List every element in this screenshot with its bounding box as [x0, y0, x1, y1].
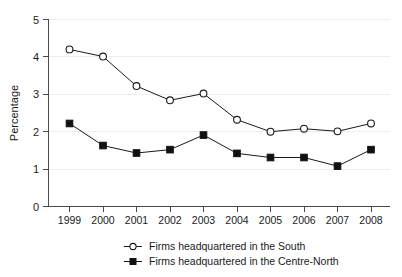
legend-item-south: Firms headquartered in the South: [124, 240, 306, 252]
data-point-marker: [200, 90, 207, 97]
data-point-marker: [267, 128, 274, 135]
legend-item-centre-north: Firms headquartered in the Centre-North: [124, 255, 339, 267]
x-tick-label-2002: 2002: [158, 214, 182, 226]
x-tick-label-2005: 2005: [259, 214, 283, 226]
legend-marker-open-circle-icon: [130, 243, 136, 249]
series-line: [70, 123, 372, 166]
data-point-marker: [100, 53, 107, 60]
y-tick-label-2: 2: [33, 126, 39, 138]
y-tick-label-5: 5: [33, 14, 39, 26]
data-point-marker: [133, 150, 140, 157]
data-point-marker: [334, 163, 341, 170]
data-point-marker: [368, 120, 375, 127]
x-tick-label-2008: 2008: [359, 214, 383, 226]
data-point-marker: [334, 128, 341, 135]
data-point-marker: [234, 116, 241, 123]
y-axis: 5 4 3 2 1 0 Percentage: [8, 14, 49, 213]
x-tick-label-2007: 2007: [326, 214, 350, 226]
data-point-marker: [100, 142, 107, 149]
line-chart: 5 4 3 2 1 0 Percentage 1999 2000 2001 20…: [0, 0, 402, 277]
x-axis: 1999 2000 2001 2002 2003 2004 2005 2006 …: [49, 207, 391, 227]
data-point-marker: [234, 150, 241, 157]
data-point-marker: [301, 125, 308, 132]
data-point-marker: [66, 46, 73, 53]
data-series-layer: [66, 46, 374, 169]
chart-figure: 5 4 3 2 1 0 Percentage 1999 2000 2001 20…: [0, 0, 402, 277]
x-tick-label-2001: 2001: [125, 214, 149, 226]
x-tick-label-1999: 1999: [58, 214, 82, 226]
series-line: [70, 49, 372, 131]
data-point-marker: [200, 132, 207, 139]
data-point-marker: [133, 83, 140, 90]
data-point-marker: [368, 146, 375, 153]
x-tick-label-2006: 2006: [292, 214, 316, 226]
x-tick-label-2003: 2003: [192, 214, 216, 226]
legend-label-centre-north: Firms headquartered in the Centre-North: [149, 255, 339, 267]
y-tick-label-4: 4: [33, 51, 39, 63]
y-tick-label-3: 3: [33, 88, 39, 100]
data-point-marker: [267, 154, 274, 161]
y-axis-label: Percentage: [8, 85, 20, 141]
x-tick-label-2000: 2000: [91, 214, 115, 226]
legend-label-south: Firms headquartered in the South: [149, 240, 306, 252]
x-tick-label-2004: 2004: [225, 214, 249, 226]
data-point-marker: [167, 97, 174, 104]
y-tick-label-0: 0: [33, 201, 39, 213]
y-tick-label-1: 1: [33, 163, 39, 175]
data-point-marker: [66, 120, 73, 127]
series-south: [66, 46, 374, 135]
chart-legend: Firms headquartered in the South Firms h…: [124, 240, 339, 267]
data-point-marker: [301, 154, 308, 161]
series-centre-north: [66, 120, 374, 169]
data-point-marker: [167, 146, 174, 153]
legend-marker-filled-square-icon: [130, 259, 136, 265]
